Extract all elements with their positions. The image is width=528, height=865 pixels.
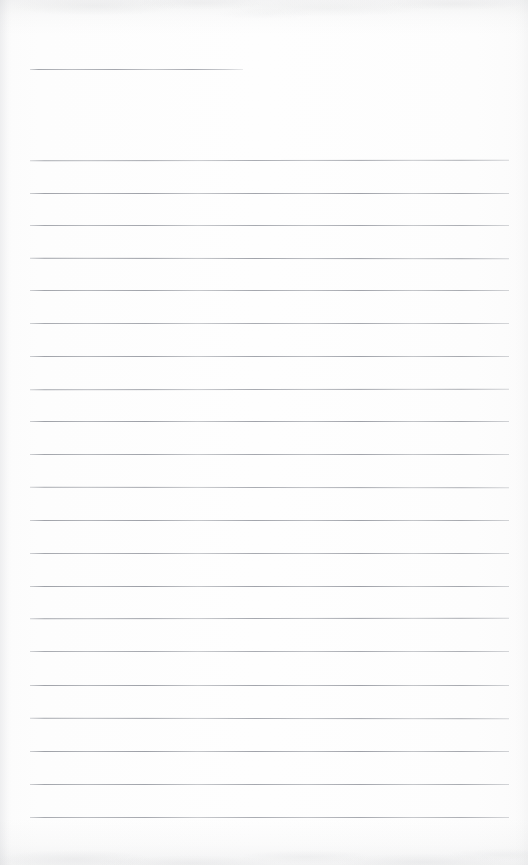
scanned-page	[0, 0, 528, 865]
paper-background	[0, 0, 528, 865]
